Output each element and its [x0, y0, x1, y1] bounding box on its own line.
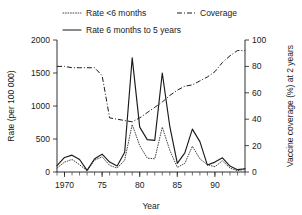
y-axis-left-ticks: 0500100015002000	[31, 35, 57, 177]
y-axis-right-tick-label: 0	[252, 167, 257, 177]
y-axis-left-tick-label: 500	[36, 134, 50, 144]
chart-series-group	[57, 51, 245, 171]
y-axis-right-tick-label: 60	[252, 88, 262, 98]
chart-legend: Rate <6 months Coverage Rate 6 months to…	[63, 8, 237, 35]
y-axis-left-tick-label: 1000	[31, 101, 50, 111]
x-axis-tick-label: 85	[173, 180, 183, 190]
y-axis-left-title: Rate (per 100 000)	[6, 70, 16, 142]
y-axis-left-tick-label: 0	[45, 167, 50, 177]
y-axis-left-tick-label: 1500	[31, 68, 50, 78]
x-axis-tick-label: 90	[210, 180, 220, 190]
series-rate-6-months-to-5-years	[57, 58, 245, 171]
y-axis-right-ticks: 020406080100	[245, 35, 266, 177]
x-axis-tick-label: 1970	[55, 180, 74, 190]
series-rate-6-months	[57, 124, 245, 170]
legend-label-rate-6-months-to-5-years: Rate 6 months to 5 years	[86, 25, 181, 35]
x-axis-title: Year	[142, 201, 159, 211]
y-axis-right-tick-label: 80	[252, 61, 262, 71]
y-axis-right-title: Vaccine coverage (%) at 2 years	[285, 45, 295, 167]
y-axis-right-tick-label: 40	[252, 114, 262, 124]
x-axis-tick-label: 80	[135, 180, 145, 190]
y-axis-left-tick-label: 2000	[31, 35, 50, 45]
x-axis-minor-ticks	[57, 172, 245, 176]
y-axis-right-tick-label: 100	[252, 35, 266, 45]
line-chart: Rate <6 months Coverage Rate 6 months to…	[0, 0, 302, 215]
y-axis-right-tick-label: 20	[252, 141, 262, 151]
legend-label-rate-under-6-months: Rate <6 months	[86, 8, 146, 18]
legend-label-coverage: Coverage	[200, 8, 237, 18]
x-axis-tick-label: 75	[97, 180, 107, 190]
chart-figure: Rate <6 months Coverage Rate 6 months to…	[0, 0, 302, 215]
series-coverage	[57, 51, 245, 122]
